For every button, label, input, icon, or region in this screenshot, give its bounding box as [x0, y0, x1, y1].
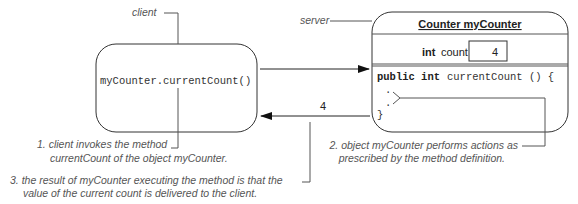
- server-label: server: [300, 14, 330, 26]
- step3-leader: [302, 122, 310, 182]
- method-keywords: public int: [377, 71, 440, 83]
- client-object-box: [96, 44, 257, 132]
- client-server-diagram: myCounter.currentCount() client Counter …: [0, 0, 578, 204]
- field-value-box: [469, 41, 507, 61]
- body-dot-1: .: [385, 84, 391, 96]
- body-dot-2: .: [385, 97, 391, 109]
- method-signature: currentCount () {: [447, 71, 554, 83]
- step3-line2: value of the current count is delivered …: [23, 187, 257, 199]
- step3-line1: 3. the result of myCounter executing the…: [10, 174, 283, 186]
- client-label-leader: [164, 13, 178, 44]
- client-label: client: [132, 6, 158, 18]
- server-object-title: Counter myCounter: [418, 18, 522, 30]
- step1-line1: 1. client invokes the method: [37, 138, 168, 150]
- step2-line2: prescribed by the method definition.: [338, 152, 505, 164]
- step1-line2: currentCount of the object myCounter.: [50, 152, 228, 164]
- closing-brace: }: [377, 109, 383, 121]
- return-value: 4: [320, 100, 326, 112]
- field-type: int: [422, 46, 436, 58]
- step2-line1: 2. object myCounter performs actions as: [329, 139, 519, 151]
- client-call-text: myCounter.currentCount(): [100, 75, 251, 87]
- field-value: 4: [492, 46, 498, 58]
- field-name: count: [441, 46, 468, 58]
